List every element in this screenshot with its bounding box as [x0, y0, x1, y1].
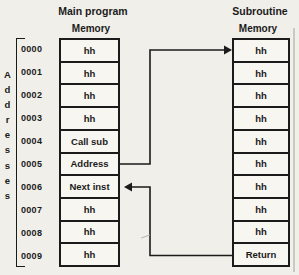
addresses-vertical-label: A d d r e s s e s [1, 67, 14, 203]
address-label: 0007 [21, 198, 55, 221]
memory-cell: hh [234, 154, 288, 177]
subroutine-title: Subroutine [232, 5, 287, 17]
address-label: 0009 [21, 244, 55, 267]
memory-cell: hh [234, 63, 288, 86]
address-column: 0000 0001 0002 0003 0004 0005 0006 0007 … [21, 38, 55, 267]
memory-cell: hh [61, 85, 118, 108]
memory-cell: hh [61, 63, 118, 86]
memory-cell: hh [61, 108, 118, 131]
address-label: 0002 [21, 84, 55, 107]
memory-cell: hh [234, 176, 288, 199]
memory-cell: hh [234, 222, 288, 245]
scan-edge-line [293, 28, 295, 272]
return-arrow-line [132, 187, 232, 256]
memory-cell: hh [234, 40, 288, 63]
memory-cell: hh [61, 199, 118, 222]
memory-cell: hh [234, 85, 288, 108]
memory-cell: hh [61, 244, 118, 265]
return-arrow-head [124, 183, 132, 192]
memory-cell: hh [61, 40, 118, 63]
memory-cell-call-sub: Call sub [61, 131, 118, 154]
main-program-memory-label: Memory [72, 23, 110, 34]
address-label: 0001 [21, 61, 55, 84]
subroutine-memory-box: hh hh hh hh hh hh hh hh hh Return [232, 38, 290, 267]
address-label: 0004 [21, 130, 55, 153]
memory-cell: hh [234, 199, 288, 222]
main-program-title: Main program [58, 5, 127, 17]
memory-cell-address: Address [61, 154, 118, 177]
address-label: 0003 [21, 107, 55, 130]
address-label: 0006 [21, 175, 55, 198]
memory-cell: hh [234, 108, 288, 131]
address-label: 0005 [21, 153, 55, 176]
memory-cell-return: Return [234, 244, 288, 265]
address-label: 0008 [21, 221, 55, 244]
address-label: 0000 [21, 38, 55, 61]
main-program-memory-box: hh hh hh hh Call sub Address Next inst h… [59, 38, 120, 267]
call-arrow-head [224, 46, 232, 55]
memory-cell-next-inst: Next inst [61, 176, 118, 199]
memory-diagram: Main program Memory Subroutine Memory A … [0, 0, 299, 275]
call-arrow-line [120, 50, 224, 164]
memory-cell: hh [234, 131, 288, 154]
scan-speck [141, 234, 150, 238]
subroutine-memory-label: Memory [239, 23, 277, 34]
memory-cell: hh [61, 222, 118, 245]
